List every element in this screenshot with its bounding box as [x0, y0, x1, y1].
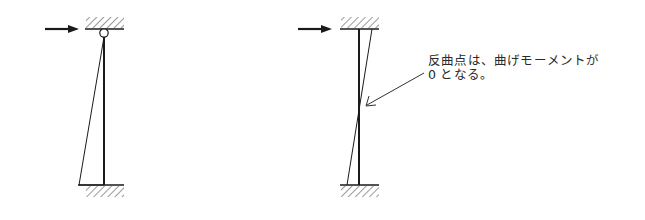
- moment-diagram-figure: [0, 0, 645, 220]
- moment-diagram-triangle: [79, 37, 104, 185]
- inflection-point-annotation: 反曲点は、曲げモーメントが 0 となる。: [428, 54, 600, 82]
- bottom-support-hatch: [340, 185, 379, 197]
- right-column-diagram: [298, 17, 424, 197]
- annotation-line-2: 0 となる。: [428, 68, 600, 82]
- top-support-hatch: [340, 17, 379, 29]
- left-column-diagram: [45, 17, 124, 197]
- load-arrow-icon: [45, 25, 79, 33]
- top-support-hatch: [85, 17, 124, 29]
- leader-arrow-icon: [366, 73, 424, 106]
- pin-support-icon: [100, 29, 108, 37]
- load-arrow-icon: [298, 25, 332, 33]
- bottom-support-hatch: [78, 185, 124, 197]
- annotation-line-1: 反曲点は、曲げモーメントが: [428, 54, 600, 68]
